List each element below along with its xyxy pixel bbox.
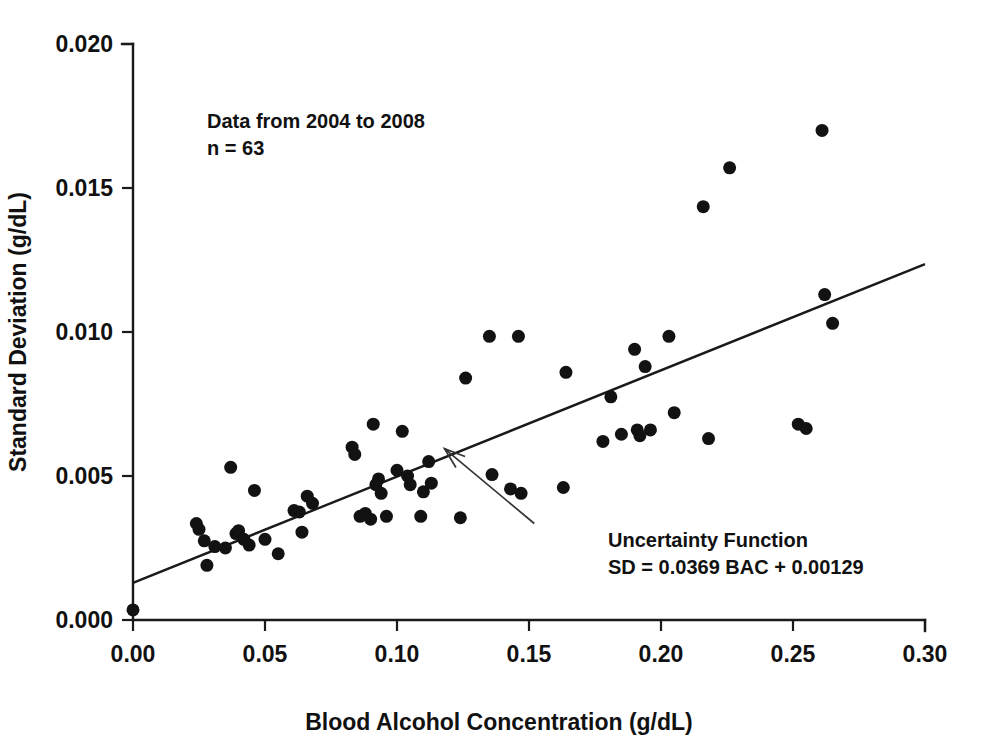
data-point <box>243 539 256 552</box>
data-point <box>372 472 385 485</box>
x-tick-label: 0.05 <box>243 641 288 667</box>
data-point <box>668 406 681 419</box>
data-point <box>818 288 831 301</box>
y-tick-label: 0.000 <box>55 607 113 633</box>
data-range-note-line-2: n = 63 <box>207 137 264 159</box>
data-point <box>272 547 285 560</box>
data-point <box>127 603 140 616</box>
data-point <box>628 343 641 356</box>
plot-background <box>0 0 999 745</box>
data-point <box>295 526 308 539</box>
data-point <box>200 559 213 572</box>
data-point <box>826 317 839 330</box>
x-tick-label: 0.10 <box>375 641 420 667</box>
data-point <box>293 506 306 519</box>
data-point <box>248 484 261 497</box>
data-point <box>306 497 319 510</box>
data-point <box>723 161 736 174</box>
fit-line-callout-equation: SD = 0.0369 BAC + 0.00129 <box>608 556 864 578</box>
data-point <box>515 487 528 500</box>
data-point <box>367 418 380 431</box>
data-point <box>596 435 609 448</box>
data-point <box>422 455 435 468</box>
data-point <box>557 481 570 494</box>
y-tick-label: 0.010 <box>55 319 113 345</box>
y-tick-label: 0.020 <box>55 31 113 57</box>
data-point <box>512 330 525 343</box>
fit-line-callout-title: Uncertainty Function <box>608 529 808 551</box>
data-point <box>559 366 572 379</box>
scatter-plot-figure: 0.000.050.100.150.200.250.30 0.0000.0050… <box>0 0 999 745</box>
plot-canvas: 0.000.050.100.150.200.250.30 0.0000.0050… <box>0 0 999 745</box>
data-point <box>348 448 361 461</box>
data-point <box>800 422 813 435</box>
data-point <box>459 372 472 385</box>
y-tick-label: 0.015 <box>55 175 113 201</box>
x-tick-label: 0.15 <box>507 641 552 667</box>
x-tick-label: 0.00 <box>111 641 156 667</box>
data-point <box>662 330 675 343</box>
data-point <box>259 533 272 546</box>
data-point <box>816 124 829 137</box>
data-point <box>414 510 427 523</box>
x-tick-label: 0.20 <box>639 641 684 667</box>
x-axis-title: Blood Alcohol Concentration (g/dL) <box>305 709 693 735</box>
x-tick-label: 0.30 <box>903 641 948 667</box>
data-point <box>486 468 499 481</box>
data-point <box>375 487 388 500</box>
data-point <box>193 523 206 536</box>
data-point <box>639 360 652 373</box>
data-point <box>396 425 409 438</box>
data-point <box>224 461 237 474</box>
x-tick-label: 0.25 <box>771 641 816 667</box>
data-point <box>404 478 417 491</box>
data-point <box>697 200 710 213</box>
y-axis-title: Standard Deviation (g/dL) <box>5 192 31 472</box>
y-tick-label: 0.005 <box>55 463 113 489</box>
data-range-note-line-1: Data from 2004 to 2008 <box>207 110 425 132</box>
data-point <box>425 477 438 490</box>
data-point <box>219 542 232 555</box>
data-point <box>615 428 628 441</box>
data-point <box>454 511 467 524</box>
data-point <box>644 423 657 436</box>
data-point <box>702 432 715 445</box>
data-point <box>380 510 393 523</box>
data-point <box>604 390 617 403</box>
data-point <box>364 513 377 526</box>
data-point <box>483 330 496 343</box>
